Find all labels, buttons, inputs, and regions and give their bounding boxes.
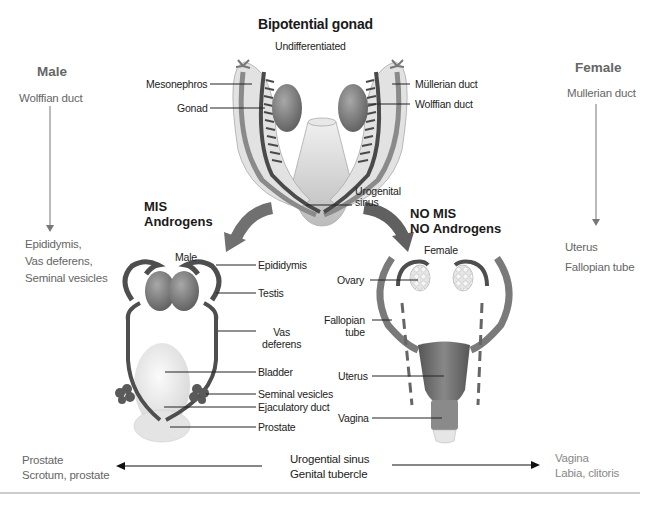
female-result-item: Fallopian tube: [565, 257, 634, 277]
female-heading: Female: [575, 60, 622, 75]
bottom-male-results: Prostate Scrotum, prostate: [22, 453, 109, 483]
uterus-label: Uterus: [338, 370, 368, 382]
female-results: Uterus Fallopian tube: [565, 237, 634, 277]
male-pathway-arrow: [236, 208, 272, 238]
bladder-label: Bladder: [258, 366, 293, 378]
prostate-label: Prostate: [258, 421, 296, 433]
male-results: Epididymis, Vas deferens, Seminal vesicl…: [25, 236, 107, 287]
female-origin: Mullerian duct: [567, 85, 636, 102]
wolffian-duct-label: Wolffian duct: [415, 98, 473, 110]
seminal-vesicles-label: Seminal vesicles: [258, 388, 333, 400]
androgens-text: Androgens: [144, 214, 213, 229]
undifferentiated-label: Undifferentiated: [275, 40, 346, 52]
female-result-item: Uterus: [565, 237, 634, 257]
male-reproductive-illustration: [115, 262, 256, 442]
vas-deferens-label: Vas deferens: [262, 326, 301, 350]
fallopian-tube-label: Fallopian tube: [324, 314, 365, 338]
bottom-right-line: Labia, clitoris: [555, 466, 619, 481]
ovary-label: Ovary: [337, 274, 364, 286]
female-reproductive-illustration: [370, 258, 509, 443]
mesonephros-label: Mesonephros: [146, 78, 207, 90]
male-result-item: Epididymis,: [25, 236, 107, 253]
fallopian-text: Fallopian: [324, 314, 365, 326]
tube-text: tube: [324, 326, 365, 338]
female-pathway-arrow: [364, 208, 403, 236]
male-origin: Wolffian duct: [19, 90, 82, 107]
epididymis-label: Epididymis: [258, 259, 307, 271]
mullerian-duct-label: Müllerian duct: [415, 78, 478, 90]
vagina-label: Vagina: [338, 412, 369, 424]
deferens-text: deferens: [262, 338, 301, 350]
female-name-label: Female: [424, 244, 458, 256]
bottom-center-text: Urogential sinus Genital tubercle: [290, 452, 369, 482]
genital-tubercle-text: Genital tubercle: [290, 467, 369, 482]
bottom-right-arrow: [392, 461, 540, 469]
gonad-label: Gonad: [177, 102, 208, 114]
male-condition: MIS Androgens: [144, 199, 213, 229]
urogenital-sinus-label: Urogenital sinus: [355, 186, 401, 208]
bottom-right-line: Vagina: [555, 451, 619, 466]
bottom-left-line: Prostate: [22, 453, 109, 468]
bottom-left-arrow: [116, 462, 262, 470]
sinus-text: sinus: [355, 197, 401, 208]
urogenital-sinus-text: Urogential sinus: [290, 452, 369, 467]
mis-text: MIS: [144, 199, 213, 214]
testis-label: Testis: [258, 287, 284, 299]
bottom-left-line: Scrotum, prostate: [22, 468, 109, 483]
male-result-item: Seminal vesicles: [25, 270, 107, 287]
bottom-female-results: Vagina Labia, clitoris: [555, 451, 619, 481]
female-condition: NO MIS NO Androgens: [410, 206, 501, 236]
diagram-title: Bipotential gonad: [258, 16, 373, 32]
female-side-arrow: [592, 104, 600, 226]
no-androgens-text: NO Androgens: [410, 221, 501, 236]
male-heading: Male: [37, 64, 67, 79]
male-result-item: Vas deferens,: [25, 253, 107, 270]
male-name-label: Male: [175, 251, 197, 263]
ejaculatory-duct-label: Ejaculatory duct: [258, 401, 330, 413]
male-side-arrow: [46, 106, 54, 232]
no-mis-text: NO MIS: [410, 206, 501, 221]
vas-text: Vas: [262, 326, 301, 338]
